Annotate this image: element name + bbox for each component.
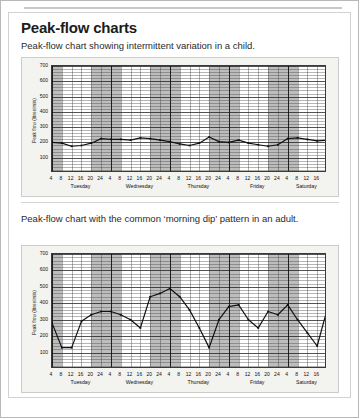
- x-axis-tick-label: 16: [313, 175, 319, 181]
- x-axis-tick-label: 20: [205, 175, 211, 181]
- x-axis-tick-label: 12: [127, 175, 133, 181]
- x-axis-tick-label: 12: [186, 371, 192, 377]
- x-axis-tick-label: 16: [78, 371, 84, 377]
- x-axis-tick-label: 8: [118, 175, 121, 181]
- x-axis-tick-label: 4: [167, 371, 170, 377]
- x-axis-tick-label: 24: [274, 371, 280, 377]
- x-axis-tick-label: 24: [274, 175, 280, 181]
- x-axis-tick-label: 12: [68, 175, 74, 181]
- x-axis-tick-label: 8: [118, 371, 121, 377]
- y-axis-tick-label: 500: [22, 93, 48, 99]
- x-axis-day-label: Saturday: [296, 183, 317, 189]
- y-axis-tick-label: 500: [22, 283, 48, 289]
- x-axis-tick-label: 12: [304, 175, 310, 181]
- x-axis-day-label: Wednesday: [126, 183, 153, 189]
- x-axis-tick-label: 16: [137, 371, 143, 377]
- x-axis-day-label: Saturday: [296, 379, 317, 385]
- y-axis-tick-label: 200: [22, 138, 48, 144]
- y-axis-tick-label: 100: [22, 349, 48, 355]
- figure-2-peak-flow-adult: Peak flow (litres/min)100200300400500600…: [21, 245, 339, 393]
- section-divider: [21, 202, 339, 203]
- x-axis-tick-label: 4: [226, 371, 229, 377]
- x-axis-day-label: Thursday: [188, 379, 210, 385]
- x-axis-tick-label: 4: [109, 175, 112, 181]
- figure-1-y-axis-label: Peak flow (litres/min): [32, 98, 37, 143]
- x-axis-tick-label: 24: [215, 371, 221, 377]
- x-axis-tick-label: 16: [313, 371, 319, 377]
- x-axis-tick-label: 8: [59, 175, 62, 181]
- x-axis-day-label: Friday: [250, 183, 264, 189]
- x-axis-tick-label: 16: [254, 175, 260, 181]
- x-axis-tick-label: 20: [88, 175, 94, 181]
- top-rule: [24, 7, 342, 9]
- y-axis-tick-label: 600: [22, 77, 48, 83]
- x-axis-tick-label: 8: [59, 371, 62, 377]
- x-axis-day-label: Thursday: [188, 183, 210, 189]
- x-axis-tick-label: 4: [285, 175, 288, 181]
- x-axis-tick-label: 20: [264, 371, 270, 377]
- figure-2-plot-area: [51, 253, 326, 368]
- x-axis-tick-label: 16: [196, 175, 202, 181]
- figure-2-caption: Peak-flow chart with the common ‘morning…: [21, 213, 336, 225]
- figure-1-caption: Peak-flow chart showing intermittent var…: [21, 40, 336, 52]
- x-axis-tick-label: 12: [245, 175, 251, 181]
- page-root: Peak-flow charts Peak-flow chart showing…: [0, 0, 360, 419]
- x-axis-tick-label: 4: [167, 175, 170, 181]
- figure-1-peak-flow-child: Peak flow (litres/min)100200300400500600…: [21, 57, 339, 197]
- x-axis-tick-label: 12: [245, 371, 251, 377]
- figure-1-data-series: [52, 66, 326, 172]
- x-axis-tick-label: 8: [177, 371, 180, 377]
- y-axis-tick-label: 400: [22, 299, 48, 305]
- y-axis-tick-label: 100: [22, 154, 48, 160]
- x-axis-day-label: Friday: [250, 379, 264, 385]
- y-axis-tick-label: 400: [22, 108, 48, 114]
- x-axis-tick-label: 4: [285, 371, 288, 377]
- x-axis-tick-label: 4: [50, 175, 53, 181]
- x-axis-day-label: Tuesday: [71, 183, 91, 189]
- x-axis-tick-label: 16: [254, 371, 260, 377]
- x-axis-tick-label: 8: [236, 175, 239, 181]
- x-axis-tick-label: 16: [78, 175, 84, 181]
- x-axis-tick-label: 24: [156, 175, 162, 181]
- x-axis-tick-label: 20: [146, 371, 152, 377]
- x-axis-tick-label: 24: [215, 175, 221, 181]
- x-axis-day-label: Wednesday: [126, 379, 153, 385]
- x-axis-tick-label: 20: [88, 371, 94, 377]
- x-axis-tick-label: 24: [97, 371, 103, 377]
- figure-2-y-axis-label: Peak flow (litres/min): [32, 290, 37, 335]
- x-axis-tick-label: 8: [177, 175, 180, 181]
- x-axis-tick-label: 20: [264, 175, 270, 181]
- content-card: Peak-flow charts Peak-flow chart showing…: [8, 12, 351, 398]
- x-axis-tick-label: 16: [137, 175, 143, 181]
- figure-2-data-series: [52, 254, 326, 368]
- x-axis-day-label: Tuesday: [71, 379, 91, 385]
- x-axis-tick-label: 8: [236, 371, 239, 377]
- x-axis-tick-label: 20: [205, 371, 211, 377]
- x-axis-tick-label: 24: [156, 371, 162, 377]
- y-axis-tick-label: 700: [22, 62, 48, 68]
- x-axis-tick-label: 8: [295, 371, 298, 377]
- y-axis-tick-label: 600: [22, 266, 48, 272]
- x-axis-tick-label: 4: [109, 371, 112, 377]
- figure-1-plot-area: [51, 65, 326, 172]
- y-axis-tick-label: 700: [22, 250, 48, 256]
- x-axis-tick-label: 16: [196, 371, 202, 377]
- y-axis-tick-label: 300: [22, 316, 48, 322]
- x-axis-tick-label: 24: [97, 175, 103, 181]
- x-axis-tick-label: 12: [186, 175, 192, 181]
- x-axis-tick-label: 20: [146, 175, 152, 181]
- y-axis-tick-label: 300: [22, 123, 48, 129]
- y-axis-tick-label: 200: [22, 332, 48, 338]
- x-axis-tick-label: 12: [304, 371, 310, 377]
- page-title: Peak-flow charts: [21, 19, 137, 36]
- x-axis-tick-label: 4: [50, 371, 53, 377]
- x-axis-tick-label: 12: [68, 371, 74, 377]
- x-axis-tick-label: 12: [127, 371, 133, 377]
- x-axis-tick-label: 4: [226, 175, 229, 181]
- x-axis-tick-label: 8: [295, 175, 298, 181]
